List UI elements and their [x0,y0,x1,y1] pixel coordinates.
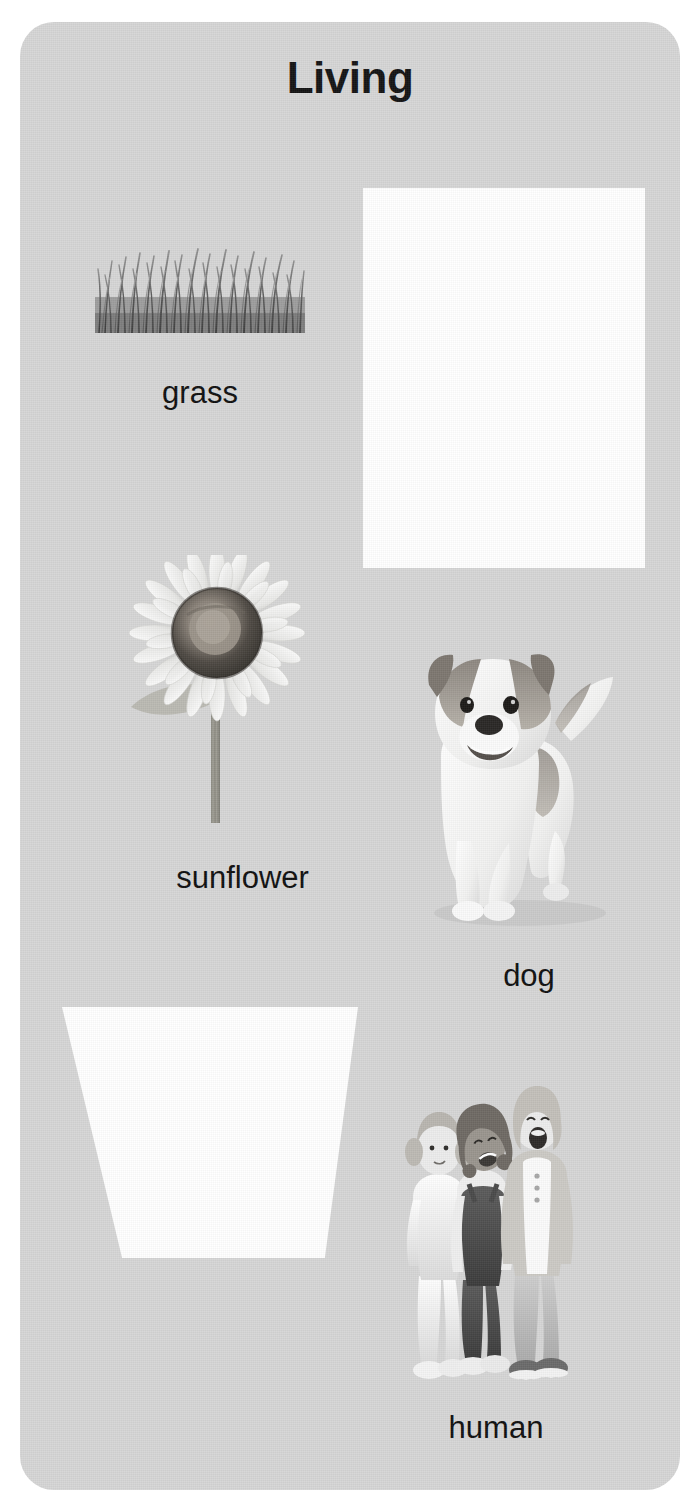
sunflower-label: sunflower [120,862,365,893]
grass-label: grass [95,377,305,408]
human-image [395,1080,597,1392]
dog-image [405,645,623,933]
dog-label: dog [420,960,638,991]
grass-image [95,245,305,333]
sunflower-image [125,555,340,827]
living-poster-panel: Living [20,22,680,1490]
blank-white-rectangle-card[interactable] [363,188,645,568]
human-label: human [395,1412,597,1443]
page-title: Living [20,56,680,100]
blank-white-trapezoid-card[interactable] [62,1007,358,1258]
